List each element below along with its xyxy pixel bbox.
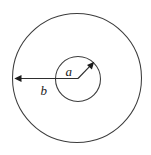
- label-radius-b: b: [41, 83, 48, 98]
- figure-background: [0, 0, 151, 155]
- label-radius-a: a: [66, 64, 73, 79]
- figure-canvas: a b: [0, 0, 151, 155]
- concentric-circles-figure: a b: [0, 0, 151, 155]
